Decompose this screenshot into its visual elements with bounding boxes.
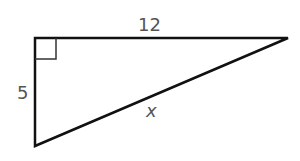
left-leg-label: 5 — [17, 82, 28, 103]
right-triangle — [35, 38, 288, 146]
right-angle-marker — [35, 38, 56, 59]
top-leg-label: 12 — [138, 14, 161, 35]
hypotenuse-label: x — [145, 100, 157, 121]
triangle-diagram: 12 5 x — [0, 0, 300, 161]
